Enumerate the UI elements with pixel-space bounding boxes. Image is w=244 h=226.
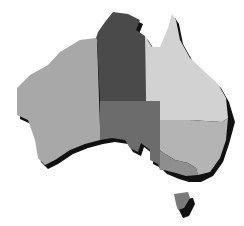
australia-map	[0, 0, 244, 226]
region-south-australia	[100, 101, 160, 170]
